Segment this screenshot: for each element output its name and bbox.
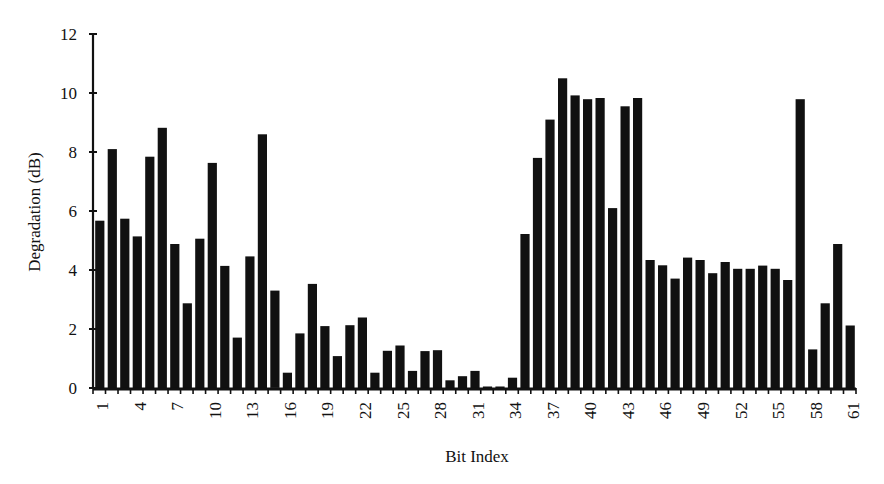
y-tick-label: 6: [69, 202, 78, 221]
bars: [95, 78, 855, 388]
bar-12: [233, 338, 242, 388]
y-axis-title: Degradation (dB): [25, 152, 44, 271]
bar-16: [283, 373, 292, 388]
bar-30: [458, 376, 467, 388]
bar-49: [696, 260, 705, 388]
bar-26: [408, 371, 417, 388]
bar-29: [445, 380, 454, 388]
bar-chart: 024681012 147101316192225283134374043464…: [0, 0, 884, 484]
bar-42: [608, 208, 617, 388]
bar-44: [633, 98, 642, 388]
bar-43: [621, 106, 630, 388]
x-tick-label: 4: [131, 402, 150, 411]
bar-55: [771, 269, 780, 388]
x-tick-label: 37: [544, 402, 563, 420]
bar-60: [833, 244, 842, 388]
y-tick-label: 10: [60, 84, 77, 103]
y-tick-label: 12: [60, 25, 77, 44]
bar-23: [370, 373, 379, 388]
x-axis-title: Bit Index: [445, 447, 509, 466]
bar-2: [108, 149, 117, 388]
bar-21: [345, 325, 354, 388]
x-tick-label: 7: [168, 402, 187, 411]
x-tick-label: 16: [281, 402, 300, 419]
bar-34: [508, 378, 517, 388]
bar-52: [733, 269, 742, 388]
bar-40: [583, 99, 592, 388]
x-axis: 147101316192225283134374043464952555861: [93, 388, 863, 419]
bar-48: [683, 258, 692, 388]
y-tick-label: 0: [69, 379, 78, 398]
bar-54: [758, 266, 767, 388]
bar-59: [821, 303, 830, 388]
x-tick-label: 25: [394, 402, 413, 419]
x-tick-label: 46: [656, 402, 675, 419]
bar-3: [120, 219, 129, 388]
bar-5: [145, 157, 154, 388]
bar-35: [520, 234, 529, 388]
bar-13: [245, 256, 254, 388]
bar-17: [295, 333, 304, 388]
bar-39: [571, 95, 580, 388]
bar-46: [658, 265, 667, 388]
bar-47: [671, 279, 680, 388]
bar-45: [646, 260, 655, 388]
x-tick-label: 31: [469, 402, 488, 419]
bar-18: [308, 284, 317, 388]
bar-19: [320, 326, 329, 388]
x-tick-label: 43: [619, 402, 638, 419]
x-tick-label: 40: [581, 402, 600, 419]
bar-51: [721, 262, 730, 388]
bar-53: [746, 269, 755, 388]
bar-24: [383, 351, 392, 388]
bar-61: [846, 326, 855, 389]
bar-31: [470, 371, 479, 388]
bar-36: [533, 158, 542, 388]
bar-25: [395, 346, 404, 389]
bar-22: [358, 318, 367, 389]
x-tick-label: 22: [356, 402, 375, 419]
x-tick-label: 61: [844, 402, 863, 419]
bar-8: [183, 303, 192, 388]
x-tick-label: 49: [694, 402, 713, 419]
x-tick-label: 52: [732, 402, 751, 419]
x-tick-label: 28: [431, 402, 450, 419]
y-tick-label: 8: [69, 143, 78, 162]
bar-20: [333, 356, 342, 388]
x-tick-label: 19: [318, 402, 337, 419]
bar-50: [708, 273, 717, 388]
bar-38: [558, 78, 567, 388]
x-tick-label: 58: [807, 402, 826, 419]
bar-28: [433, 350, 442, 388]
x-tick-label: 1: [93, 402, 112, 411]
x-tick-label: 55: [769, 402, 788, 419]
bar-11: [220, 266, 229, 388]
bar-7: [170, 244, 179, 388]
x-tick-label: 34: [506, 402, 525, 420]
x-tick-label: 13: [243, 402, 262, 419]
bar-37: [545, 120, 554, 388]
x-tick-label: 10: [206, 402, 225, 419]
bar-56: [783, 280, 792, 388]
y-axis: 024681012: [60, 25, 97, 398]
bar-27: [420, 351, 429, 388]
bar-58: [808, 349, 817, 388]
bar-15: [270, 291, 279, 388]
bar-41: [596, 98, 605, 388]
bar-9: [195, 239, 204, 388]
bar-6: [158, 128, 167, 388]
bar-4: [133, 236, 142, 388]
bar-14: [258, 134, 267, 388]
bar-1: [95, 221, 104, 388]
bar-10: [208, 163, 217, 388]
bar-57: [796, 99, 805, 388]
y-tick-label: 4: [69, 261, 78, 280]
y-tick-label: 2: [69, 320, 78, 339]
